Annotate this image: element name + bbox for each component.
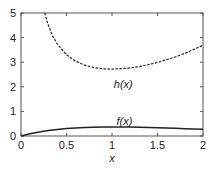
curve-label-fx: f(x) — [117, 115, 133, 127]
plot-frame — [21, 13, 203, 136]
curves — [21, 13, 203, 136]
x-tick-label: 0.5 — [59, 139, 74, 151]
x-tick-label: 1.5 — [150, 139, 165, 151]
curve-labels: f(x)h(x) — [114, 78, 133, 127]
curve-label-hx: h(x) — [114, 78, 133, 90]
x-tick-label: 1 — [109, 139, 115, 151]
y-tick-label: 5 — [10, 7, 16, 19]
y-tick-label: 3 — [10, 56, 16, 68]
tick-labels: 00.511.52012345 — [10, 7, 206, 151]
chart: 00.511.52012345 f(x)h(x) x — [0, 0, 212, 172]
x-axis-label: x — [108, 152, 115, 164]
x-tick-label: 2 — [200, 139, 206, 151]
y-tick-label: 1 — [10, 105, 16, 117]
y-tick-label: 2 — [10, 81, 16, 93]
x-tick-label: 0 — [18, 139, 24, 151]
y-tick-label: 0 — [10, 130, 16, 142]
curve-hx — [45, 13, 203, 69]
y-tick-label: 4 — [10, 32, 16, 44]
ticks — [21, 13, 203, 136]
